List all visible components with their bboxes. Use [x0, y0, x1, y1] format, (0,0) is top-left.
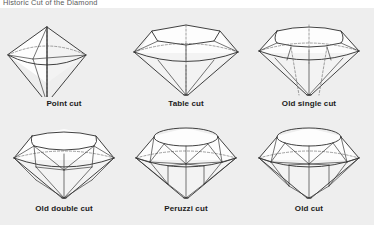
old-double-cut-diagram: [2, 118, 126, 202]
figure-title: Historic Cut of the Diamond: [3, 0, 363, 8]
cut-label-peruzzi-cut: Peruzzi cut: [124, 204, 248, 214]
old-single-cut-diagram: [247, 13, 371, 97]
historic-diamond-cuts-figure: Historic Cut of the Diamond: [0, 0, 374, 231]
table-cut-diagram: [124, 13, 248, 97]
cut-label-table-cut: Table cut: [124, 99, 248, 109]
peruzzi-cut-diagram: [124, 118, 248, 202]
cut-item-point-cut: Point cut: [2, 13, 126, 121]
cut-label-point-cut: Point cut: [2, 99, 126, 109]
point-cut-diagram: [2, 13, 126, 97]
cut-label-old-double-cut: Old double cut: [2, 204, 126, 214]
cut-item-peruzzi-cut: Peruzzi cut: [124, 118, 248, 226]
cut-grid: Point cut: [0, 8, 374, 225]
cut-item-old-single-cut: Old single cut: [247, 13, 371, 121]
cut-label-old-cut: Old cut: [247, 204, 371, 214]
cut-item-old-double-cut: Old double cut: [2, 118, 126, 226]
figure-plate: Point cut: [0, 8, 374, 225]
old-cut-diagram: [247, 118, 371, 202]
cut-item-old-cut: Old cut: [247, 118, 371, 226]
cut-item-table-cut: Table cut: [124, 13, 248, 121]
cut-label-old-single-cut: Old single cut: [247, 99, 371, 109]
